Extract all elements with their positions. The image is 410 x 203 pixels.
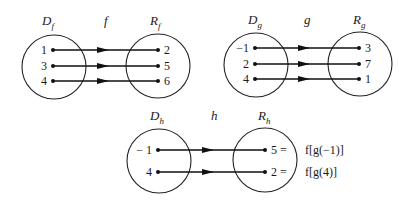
range-value: 3 — [365, 41, 371, 55]
start-dot — [51, 79, 55, 83]
start-dot — [156, 148, 160, 152]
range-value: 1 — [365, 72, 371, 86]
range-value: 5 = — [271, 143, 287, 157]
mapping-f: DffRf123546 — [22, 13, 190, 99]
composition-annotation: f[g(−1)] — [305, 143, 344, 157]
end-dot — [156, 64, 160, 68]
mapping-arrow: − 15 =f[g(−1)] — [136, 143, 344, 157]
arrowhead-icon — [97, 47, 109, 53]
domain-circle-h — [127, 129, 191, 193]
start-dot — [253, 77, 257, 81]
mapping-arrow: 12 — [41, 43, 170, 57]
range-value: 5 — [164, 59, 170, 73]
composition-annotation: f[g(4)] — [305, 165, 337, 179]
arrowhead-icon — [202, 169, 214, 175]
domain-value: 1 — [41, 43, 47, 57]
range-circle-h — [233, 128, 297, 192]
end-dot — [263, 148, 267, 152]
range-label-h: Rh — [257, 108, 271, 126]
end-dot — [156, 48, 160, 52]
mapping-h: DhhRh− 15 =f[g(−1)]42 =f[g(4)] — [127, 108, 344, 193]
function-label-h: h — [211, 108, 218, 123]
mapping-arrow: 42 =f[g(4)] — [146, 165, 337, 179]
arrowhead-icon — [202, 147, 214, 153]
function-label-f: f — [104, 13, 110, 28]
domain-value: 4 — [41, 74, 47, 88]
end-dot — [357, 46, 361, 50]
start-dot — [253, 46, 257, 50]
mapping-arrow: 27 — [243, 57, 371, 71]
arrowhead-icon — [298, 76, 310, 82]
domain-value: − 1 — [136, 143, 152, 157]
function-label-g: g — [304, 12, 311, 27]
start-dot — [156, 170, 160, 174]
domain-value: −1 — [236, 41, 249, 55]
domain-label-f: Df — [41, 13, 55, 31]
range-label-g: Rg — [352, 12, 366, 30]
mapping-arrow: 46 — [41, 74, 170, 88]
domain-label-g: Dg — [247, 12, 262, 30]
domain-value: 2 — [243, 57, 249, 71]
range-label-f: Rf — [149, 13, 162, 31]
range-value: 2 = — [271, 165, 287, 179]
domain-value: 4 — [243, 72, 249, 86]
start-dot — [253, 62, 257, 66]
end-dot — [156, 79, 160, 83]
end-dot — [357, 62, 361, 66]
domain-value: 3 — [41, 59, 47, 73]
mapping-arrow: 41 — [243, 72, 371, 86]
domain-value: 4 — [146, 165, 152, 179]
arrowhead-icon — [97, 63, 109, 69]
mapping-arrow: 35 — [41, 59, 170, 73]
function-mapping-diagram: DffRf123546DggRg−132741DhhRh− 15 =f[g(−1… — [0, 0, 410, 203]
domain-label-h: Dh — [149, 108, 164, 126]
range-value: 7 — [365, 57, 371, 71]
start-dot — [51, 48, 55, 52]
arrowhead-icon — [298, 61, 310, 67]
arrowhead-icon — [298, 45, 310, 51]
range-value: 6 — [164, 74, 170, 88]
mapping-arrow: −13 — [236, 41, 371, 55]
range-value: 2 — [164, 43, 170, 57]
arrowhead-icon — [97, 78, 109, 84]
mapping-g: DggRg−132741 — [224, 12, 392, 97]
end-dot — [263, 170, 267, 174]
start-dot — [51, 64, 55, 68]
diagram-canvas: DffRf123546DggRg−132741DhhRh− 15 =f[g(−1… — [0, 0, 410, 203]
end-dot — [357, 77, 361, 81]
